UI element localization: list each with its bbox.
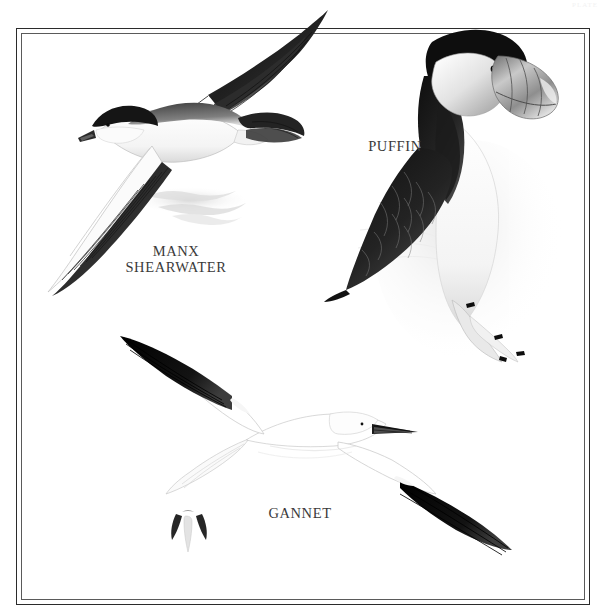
species-label-manx-shearwater: MANX SHEARWATER	[112, 243, 240, 275]
page-corner-mark: PLATE	[572, 1, 598, 9]
illustration-plate: PLATE	[0, 0, 607, 616]
species-label-puffin: PUFFIN	[352, 138, 438, 154]
species-label-gannet: GANNET	[251, 505, 349, 521]
